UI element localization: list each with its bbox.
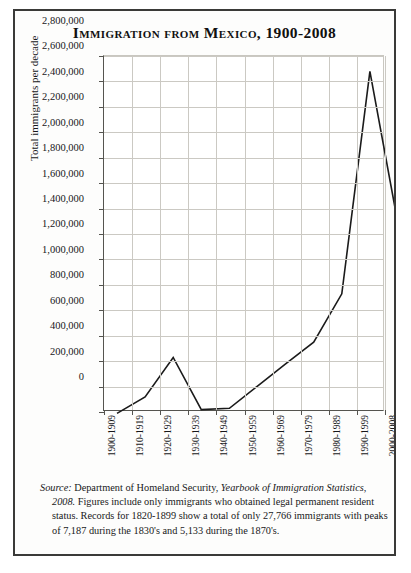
y-axis-tick-label: 400,000 bbox=[50, 320, 90, 331]
y-axis-tick-label: 2,000,000 bbox=[42, 116, 90, 127]
source-publisher-text: Department of Homeland Security, bbox=[74, 482, 218, 493]
x-axis-tick-labels: 1900-19091910-19191920-19291930-19391940… bbox=[103, 415, 384, 477]
x-axis-tick-mark bbox=[385, 410, 386, 415]
x-axis-tick-label: 1990-1999 bbox=[360, 415, 370, 456]
data-series-line bbox=[117, 65, 396, 421]
grid-line-vertical bbox=[357, 56, 358, 410]
grid-line-horizontal bbox=[104, 336, 383, 337]
x-axis-tick-label: 1950-1959 bbox=[248, 415, 258, 456]
y-axis-tick-mark bbox=[99, 132, 104, 133]
y-axis-tick-label: 1,000,000 bbox=[42, 243, 90, 254]
y-axis-tick-mark bbox=[99, 56, 104, 57]
y-axis-tick-label: 200,000 bbox=[50, 345, 90, 356]
y-axis-tick-mark bbox=[99, 107, 104, 108]
grid-line-horizontal bbox=[104, 209, 383, 210]
y-axis-tick-label: 2,600,000 bbox=[42, 40, 90, 51]
grid-line-horizontal bbox=[104, 132, 383, 133]
y-axis-tick-mark bbox=[99, 336, 104, 337]
y-axis-tick-label: 1,600,000 bbox=[42, 167, 90, 178]
grid-line-horizontal bbox=[104, 234, 383, 235]
source-note: Source: Department of Homeland Security,… bbox=[40, 481, 390, 538]
y-axis-tick-mark bbox=[99, 310, 104, 311]
y-axis-tick-mark bbox=[99, 285, 104, 286]
grid-line-vertical bbox=[273, 56, 274, 410]
x-axis-tick-label: 1930-1939 bbox=[191, 415, 201, 456]
grid-line-horizontal bbox=[104, 158, 383, 159]
grid-line-horizontal bbox=[104, 361, 383, 362]
grid-line-vertical bbox=[301, 56, 302, 410]
y-axis-tick-label: 0 bbox=[79, 371, 90, 382]
grid-line-horizontal bbox=[104, 310, 383, 311]
grid-line-horizontal bbox=[104, 183, 383, 184]
y-axis-tick-mark bbox=[99, 259, 104, 260]
grid-line-vertical bbox=[329, 56, 330, 410]
y-axis-tick-label: 800,000 bbox=[50, 269, 90, 280]
grid-line-horizontal bbox=[104, 259, 383, 260]
x-axis-tick-label: 1960-1969 bbox=[276, 415, 286, 456]
y-axis-tick-mark bbox=[99, 234, 104, 235]
grid-line-horizontal bbox=[104, 387, 383, 388]
source-rest: Figures include only immigrants who obta… bbox=[52, 496, 388, 535]
y-axis-tick-label: 2,800,000 bbox=[42, 15, 90, 26]
chart-figure: Immigration from Mexico, 1900-2008 Total… bbox=[13, 9, 396, 556]
y-axis-tick-label: 1,200,000 bbox=[42, 218, 90, 229]
x-axis-tick-label: 1940-1949 bbox=[219, 415, 229, 456]
y-axis-tick-labels: 2,800,0002,600,0002,400,0002,200,0002,00… bbox=[15, 20, 90, 376]
y-axis-tick-label: 2,400,000 bbox=[42, 65, 90, 76]
x-axis-tick-label: 1900-1909 bbox=[107, 415, 117, 456]
x-axis-tick-label: 1920-1929 bbox=[163, 415, 173, 456]
x-axis-tick-label: 1970-1979 bbox=[304, 415, 314, 456]
grid-line-vertical bbox=[385, 56, 386, 410]
plot-area bbox=[103, 55, 384, 411]
grid-line-horizontal bbox=[104, 107, 383, 108]
grid-line-vertical bbox=[216, 56, 217, 410]
grid-line-vertical bbox=[188, 56, 189, 410]
x-axis-tick-label: 2000-2008 bbox=[388, 415, 396, 456]
grid-line-vertical bbox=[132, 56, 133, 410]
y-axis-tick-label: 1,800,000 bbox=[42, 142, 90, 153]
plot-area-wrapper bbox=[90, 46, 384, 420]
grid-line-vertical bbox=[160, 56, 161, 410]
y-axis-tick-mark bbox=[99, 387, 104, 388]
grid-line-horizontal bbox=[104, 56, 383, 57]
y-axis-tick-label: 2,200,000 bbox=[42, 91, 90, 102]
y-axis-tick-mark bbox=[99, 209, 104, 210]
grid-line-horizontal bbox=[104, 81, 383, 82]
y-axis-tick-mark bbox=[99, 183, 104, 184]
grid-line-horizontal bbox=[104, 285, 383, 286]
y-axis-tick-mark bbox=[99, 158, 104, 159]
x-axis-tick-label: 1980-1989 bbox=[332, 415, 342, 456]
y-axis-tick-mark bbox=[99, 81, 104, 82]
y-axis-tick-label: 600,000 bbox=[50, 294, 90, 305]
y-axis-tick-label: 1,400,000 bbox=[42, 193, 90, 204]
source-label: Source: bbox=[40, 482, 72, 493]
grid-line-vertical bbox=[245, 56, 246, 410]
y-axis-tick-mark bbox=[99, 361, 104, 362]
x-axis-tick-label: 1910-1919 bbox=[135, 415, 145, 456]
